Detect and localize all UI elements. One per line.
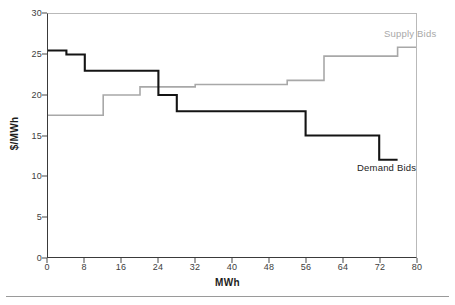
supply-bids-label: Supply Bids <box>384 28 436 39</box>
y-tick-mark <box>42 217 47 218</box>
y-tick-label: 20 <box>20 90 42 100</box>
x-tick-label: 0 <box>35 262 59 272</box>
x-tick-mark <box>380 258 381 263</box>
x-tick-mark <box>269 258 270 263</box>
demand-bids-label: Demand Bids <box>357 162 416 173</box>
y-tick-mark <box>42 176 47 177</box>
x-tick-mark <box>47 258 48 263</box>
series-line-demand-bids <box>48 50 398 159</box>
chart-figure: 051015202530 08162432404856647280 $/MWh … <box>0 0 455 305</box>
x-tick-label: 48 <box>257 262 281 272</box>
x-tick-label: 64 <box>331 262 355 272</box>
y-axis-title: $/MWh <box>9 104 20 164</box>
y-tick-label: 5 <box>20 212 42 222</box>
x-tick-mark <box>232 258 233 263</box>
x-tick-label: 72 <box>368 262 392 272</box>
series-line-supply-bids <box>48 47 416 115</box>
x-tick-mark <box>121 258 122 263</box>
y-tick-mark <box>42 13 47 14</box>
y-tick-label: 25 <box>20 49 42 59</box>
x-axis-title: MWh <box>0 277 455 288</box>
x-tick-label: 8 <box>72 262 96 272</box>
y-tick-mark <box>42 94 47 95</box>
x-tick-mark <box>417 258 418 263</box>
x-tick-label: 32 <box>183 262 207 272</box>
x-tick-label: 56 <box>294 262 318 272</box>
y-tick-label: 15 <box>20 131 42 141</box>
series-layer <box>48 14 416 257</box>
y-tick-label: 30 <box>20 8 42 18</box>
x-tick-mark <box>84 258 85 263</box>
x-tick-mark <box>306 258 307 263</box>
y-tick-label: 10 <box>20 171 42 181</box>
x-tick-mark <box>343 258 344 263</box>
x-tick-label: 16 <box>109 262 133 272</box>
x-tick-mark <box>195 258 196 263</box>
x-tick-label: 24 <box>146 262 170 272</box>
plot-area <box>47 13 417 258</box>
y-tick-mark <box>42 135 47 136</box>
footer-divider <box>6 296 449 297</box>
x-tick-label: 40 <box>220 262 244 272</box>
y-tick-mark <box>42 53 47 54</box>
x-tick-label: 80 <box>405 262 429 272</box>
x-tick-mark <box>158 258 159 263</box>
